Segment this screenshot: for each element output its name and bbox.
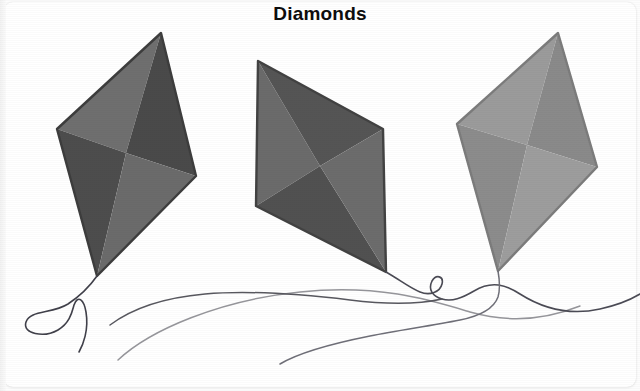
right-kite — [457, 33, 597, 271]
middle-kite-string-left-sweep — [110, 292, 442, 325]
kite-illustration — [0, 0, 640, 391]
left-kite — [57, 33, 196, 276]
middle-kite-string — [386, 272, 640, 312]
right-kite-string — [280, 271, 500, 364]
screenshot-root: Diamonds — [0, 0, 640, 391]
left-kite-string — [26, 276, 97, 352]
page-title: Diamonds — [0, 3, 640, 25]
middle-kite — [256, 61, 386, 272]
